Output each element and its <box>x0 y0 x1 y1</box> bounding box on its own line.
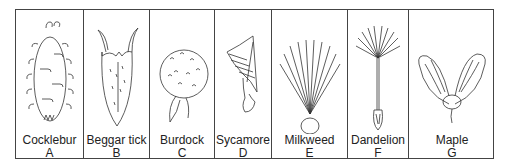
label-letter: A <box>16 147 83 160</box>
panel-milkweed: Milkweed E <box>272 10 348 158</box>
label-letter: E <box>272 147 347 160</box>
beggar-tick-illustration <box>84 14 150 134</box>
cocklebur-illustration <box>16 14 84 134</box>
panel-dandelion: Dandelion F <box>348 10 409 158</box>
maple-illustration <box>409 14 495 134</box>
milkweed-illustration <box>272 14 348 134</box>
label-letter: C <box>150 147 214 160</box>
sycamore-illustration <box>215 14 272 134</box>
panel-burdock: Burdock C <box>150 10 215 158</box>
label-letter: G <box>409 147 495 160</box>
panel-maple: Maple G <box>409 10 495 158</box>
seed-diagram-frame: Cocklebur A Beggar tick B Burdock C Syca… <box>15 9 494 159</box>
label-letter: F <box>348 147 408 160</box>
label-letter: D <box>215 147 271 160</box>
burdock-illustration <box>150 14 215 134</box>
panel-sycamore: Sycamore D <box>215 10 272 158</box>
dandelion-illustration <box>348 14 409 134</box>
panel-cocklebur: Cocklebur A <box>16 10 84 158</box>
label-letter: B <box>84 147 149 160</box>
panel-beggar-tick: Beggar tick B <box>84 10 150 158</box>
